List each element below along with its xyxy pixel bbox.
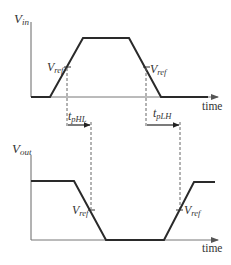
tphl-label: tpHL	[68, 109, 87, 124]
vref-label-out-rise: Vref	[184, 203, 202, 218]
tplh-label: tpLH	[153, 106, 172, 121]
vref-label-in-fall: Vref	[150, 62, 168, 77]
time-label-top: time	[202, 100, 222, 112]
vout-label: Vout	[12, 141, 32, 157]
timing-diagram: Vin Vref Vref time tpHL tpLH	[0, 0, 231, 265]
output-panel: Vout Vref Vref time	[12, 141, 222, 254]
input-panel: Vin Vref Vref time	[14, 11, 222, 112]
vref-label-in-rise: Vref	[47, 60, 65, 75]
time-label-bottom: time	[202, 242, 222, 254]
delay-markers: tpHL tpLH	[67, 68, 180, 209]
vin-label: Vin	[14, 11, 29, 27]
